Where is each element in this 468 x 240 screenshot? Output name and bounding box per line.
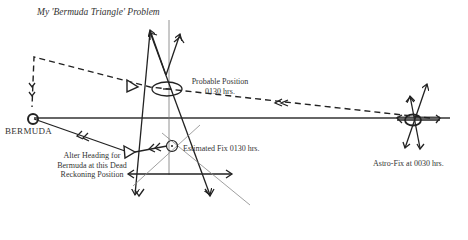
probable-position-line1: Probable Position xyxy=(180,77,260,87)
probable-position-line2: 0130 hrs. xyxy=(180,87,260,97)
bermuda-label: BERMUDA xyxy=(5,127,52,137)
alter-heading-line2: Bermuda at this Dead xyxy=(52,161,132,171)
dead-reckoning-triangle-icon xyxy=(127,80,138,92)
bottom-position-line xyxy=(128,170,232,196)
probable-position-fix xyxy=(135,20,210,195)
astro-fix-label: Astro-Fix at 0030 hrs. xyxy=(373,159,444,169)
bermuda-marker-icon xyxy=(28,114,38,124)
alter-heading-label: Alter Heading for Bermuda at this Dead R… xyxy=(52,151,132,180)
estimated-fix-label: Estimated Fix 0130 hrs. xyxy=(183,144,259,154)
alter-heading-line1: Alter Heading for xyxy=(52,151,132,161)
astro-fix-marker xyxy=(397,84,440,149)
probable-position-label: Probable Position 0130 hrs. xyxy=(180,77,260,96)
estimated-fix xyxy=(133,125,250,205)
alter-heading-line3: Reckoning Position xyxy=(52,170,132,180)
